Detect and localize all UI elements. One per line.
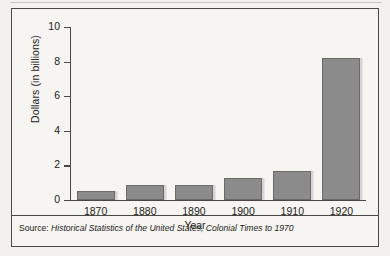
- bar: [273, 171, 311, 200]
- y-axis-tick: [64, 62, 71, 63]
- y-axis-line: [70, 27, 71, 201]
- y-axis-tick-label: 8: [30, 55, 60, 67]
- bar: [77, 191, 115, 200]
- chart-plot-area: Dollars (in billions) 0246810 1870188018…: [12, 9, 378, 217]
- bar: [175, 185, 213, 200]
- source-title: Historical Statistics of the United Stat…: [51, 223, 294, 233]
- y-axis-tick: [64, 27, 71, 28]
- y-axis-tick: [64, 96, 71, 97]
- top-crop-rule: [10, 2, 382, 3]
- y-axis-tick-label: 0: [30, 193, 60, 205]
- source-divider: [12, 215, 378, 216]
- y-axis-tick-label: 4: [30, 124, 60, 136]
- y-axis-tick: [64, 131, 71, 132]
- figure-container: Dollars (in billions) 0246810 1870188018…: [11, 8, 379, 247]
- y-axis-tick: [64, 165, 71, 166]
- y-axis-tick: [64, 200, 71, 201]
- y-axis-tick-label: 6: [30, 89, 60, 101]
- bar: [224, 178, 262, 201]
- y-axis-tick-label: 2: [30, 158, 60, 170]
- y-axis-tick-label: 10: [30, 20, 60, 32]
- source-label: Source:: [19, 223, 49, 233]
- bar: [322, 58, 360, 200]
- x-axis-line: [70, 200, 366, 201]
- source-note: Source: Historical Statistics of the Uni…: [19, 223, 372, 233]
- bar: [126, 185, 164, 200]
